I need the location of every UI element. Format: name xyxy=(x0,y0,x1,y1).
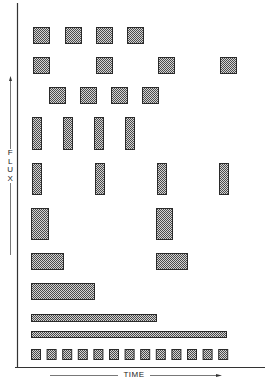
flux-block xyxy=(220,164,229,195)
row-3 xyxy=(50,88,159,104)
flux-block xyxy=(66,28,82,44)
row-7 xyxy=(32,254,188,270)
flux-arrowhead-icon xyxy=(9,76,12,81)
flux-block xyxy=(188,350,197,360)
flux-block xyxy=(33,164,42,195)
flux-block xyxy=(143,88,159,104)
flux-block xyxy=(126,118,135,150)
y-axis-label-text: FLUX xyxy=(7,148,13,183)
flux-block xyxy=(157,254,188,270)
flux-block xyxy=(32,350,41,360)
flux-block xyxy=(110,350,119,360)
row-11 xyxy=(32,350,228,360)
flux-block xyxy=(33,118,42,150)
flux-block xyxy=(63,350,72,360)
flux-block xyxy=(64,118,73,150)
flux-block xyxy=(141,350,150,360)
row-5 xyxy=(33,164,229,195)
x-axis-label: TIME xyxy=(118,370,150,379)
flux-block xyxy=(95,118,104,150)
flux-block xyxy=(96,164,105,195)
flux-block xyxy=(78,350,87,360)
row-9 xyxy=(32,315,157,322)
flux-block xyxy=(157,209,173,240)
flux-block xyxy=(172,350,181,360)
flux-block xyxy=(203,350,212,360)
flux-block xyxy=(156,350,165,360)
flux-blocks xyxy=(32,28,237,360)
flux-block xyxy=(219,350,228,360)
row-4 xyxy=(33,118,135,150)
flux-block xyxy=(97,58,113,74)
flux-block xyxy=(32,284,95,300)
flux-block xyxy=(34,28,50,44)
row-6 xyxy=(32,209,173,240)
flux-block xyxy=(221,58,237,74)
flux-block xyxy=(158,164,167,195)
flux-block xyxy=(112,88,128,104)
flux-block xyxy=(32,315,157,322)
flux-block xyxy=(128,28,144,44)
row-8 xyxy=(32,284,95,300)
flux-block xyxy=(97,28,113,44)
row-2 xyxy=(34,58,237,74)
diagram-canvas xyxy=(0,0,265,383)
flux-block xyxy=(94,350,103,360)
flux-block xyxy=(32,332,227,338)
flux-time-diagram: FLUX TIME xyxy=(0,0,265,383)
row-1 xyxy=(34,28,144,44)
row-10 xyxy=(32,332,227,338)
flux-block xyxy=(50,88,66,104)
flux-block xyxy=(47,350,56,360)
flux-block xyxy=(159,58,175,74)
flux-block xyxy=(32,254,64,270)
flux-block xyxy=(81,88,97,104)
flux-block xyxy=(32,209,49,240)
y-axis-label: FLUX xyxy=(6,149,15,183)
flux-block xyxy=(34,58,50,74)
time-arrowhead-icon xyxy=(216,374,222,377)
flux-block xyxy=(125,350,134,360)
